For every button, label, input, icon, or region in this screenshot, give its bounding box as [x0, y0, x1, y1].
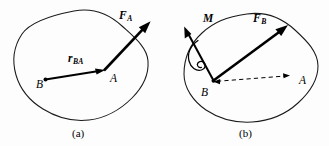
label-point-a-b: A [298, 74, 307, 86]
label-point-a-a: A [109, 72, 118, 84]
label-f-a: FA [118, 9, 132, 23]
panel-b: M FB B A (b) [184, 12, 318, 140]
caption-panel-b: (b) [239, 127, 252, 140]
vector-f-a-shaft [104, 26, 146, 70]
moment-curl-tail [197, 64, 201, 67]
vector-m-shaft [187, 32, 213, 80]
reference-line-arrowhead [283, 73, 290, 78]
point-b-dot-a [44, 78, 48, 82]
vector-r-ba-shaft [46, 71, 101, 80]
figure-root: rBA FA B A (a) [0, 0, 329, 146]
figure-canvas: rBA FA B A (a) [0, 0, 329, 146]
label-r-ba: rBA [68, 52, 83, 66]
panel-a: rBA FA B A (a) [14, 9, 151, 140]
caption-panel-a: (a) [72, 127, 85, 140]
reference-line-ba-dashed [217, 76, 286, 81]
label-m: M [202, 12, 214, 24]
vector-f-b-shaft [214, 30, 283, 81]
label-point-b-b: B [201, 86, 208, 98]
moment-curl-icon [188, 41, 205, 71]
point-b-dot-b [212, 79, 216, 83]
label-point-b-a: B [36, 78, 43, 90]
